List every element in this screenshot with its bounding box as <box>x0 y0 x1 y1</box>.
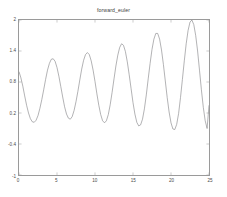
chart-title: forward_euler <box>0 7 227 13</box>
x-axis-tick-labels: 0510152025 <box>18 178 210 188</box>
data-series-line <box>19 20 209 130</box>
y-tick-label: -0.4 <box>8 142 16 147</box>
x-tick-label: 0 <box>17 178 20 183</box>
plot-area <box>18 19 210 176</box>
y-tick-label: 2 <box>13 17 16 22</box>
y-tick-label: -1 <box>12 174 16 179</box>
x-tick-label: 25 <box>207 178 212 183</box>
x-tick-label: 20 <box>169 178 174 183</box>
x-tick-label: 15 <box>131 178 136 183</box>
x-tick-label: 10 <box>92 178 97 183</box>
y-tick-label: 1.4 <box>10 48 16 53</box>
y-tick-label: 0.2 <box>10 111 16 116</box>
y-tick-label: 0.8 <box>10 79 16 84</box>
figure-canvas: forward_euler 21.40.80.2-0.4-1 051015202… <box>0 0 227 197</box>
x-tick-label: 5 <box>55 178 58 183</box>
y-axis-tick-labels: 21.40.80.2-0.4-1 <box>0 19 16 176</box>
plot-svg <box>19 20 209 175</box>
